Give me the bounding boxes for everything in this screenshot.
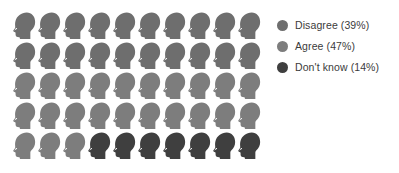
head-silhouette-icon [88,72,111,99]
head-silhouette-icon [138,42,161,69]
head-silhouette-icon [88,132,111,159]
head-silhouette-icon [163,132,186,159]
legend-color-swatch-icon [277,41,288,52]
head-silhouette-icon [163,72,186,99]
head-silhouette-icon [13,12,36,39]
head-silhouette-icon [138,132,161,159]
head-silhouette-icon [38,132,61,159]
legend-item-label: Agree (47%) [295,40,355,53]
head-silhouette-icon [188,102,211,129]
head-silhouette-icon [188,12,211,39]
head-silhouette-icon [63,42,86,69]
head-silhouette-icon [213,42,236,69]
head-silhouette-icon [13,132,36,159]
head-silhouette-icon [163,42,186,69]
head-silhouette-icon [213,102,236,129]
head-silhouette-icon [88,42,111,69]
head-silhouette-icon [238,12,261,39]
head-silhouette-icon [113,132,136,159]
pictogram-grid [13,12,263,162]
head-silhouette-icon [38,12,61,39]
head-silhouette-icon [63,72,86,99]
head-silhouette-icon [63,102,86,129]
head-silhouette-icon [213,12,236,39]
head-silhouette-icon [88,12,111,39]
head-silhouette-icon [213,132,236,159]
head-silhouette-icon [38,42,61,69]
legend-item[interactable]: Agree (47%) [277,36,397,57]
legend-color-swatch-icon [277,62,288,73]
head-silhouette-icon [88,102,111,129]
head-silhouette-icon [63,132,86,159]
head-silhouette-icon [213,72,236,99]
head-silhouette-icon [113,72,136,99]
head-silhouette-icon [113,42,136,69]
head-silhouette-icon [138,72,161,99]
head-silhouette-icon [113,12,136,39]
head-silhouette-icon [188,72,211,99]
head-silhouette-icon [238,132,261,159]
head-silhouette-icon [13,102,36,129]
head-silhouette-icon [238,72,261,99]
head-silhouette-icon [238,42,261,69]
pictogram-chart: Disagree (39%)Agree (47%)Don't know (14%… [0,0,399,173]
head-silhouette-icon [163,12,186,39]
legend-item[interactable]: Disagree (39%) [277,15,397,36]
head-silhouette-icon [163,102,186,129]
legend-item[interactable]: Don't know (14%) [277,57,397,78]
head-silhouette-icon [113,102,136,129]
head-silhouette-icon [138,12,161,39]
head-silhouette-icon [138,102,161,129]
head-silhouette-icon [188,42,211,69]
legend-item-label: Don't know (14%) [295,61,379,74]
chart-legend: Disagree (39%)Agree (47%)Don't know (14%… [277,15,397,78]
head-silhouette-icon [188,132,211,159]
legend-color-swatch-icon [277,20,288,31]
head-silhouette-icon [38,72,61,99]
legend-item-label: Disagree (39%) [295,19,369,32]
head-silhouette-icon [13,42,36,69]
head-silhouette-icon [63,12,86,39]
head-silhouette-icon [238,102,261,129]
head-silhouette-icon [13,72,36,99]
head-silhouette-icon [38,102,61,129]
